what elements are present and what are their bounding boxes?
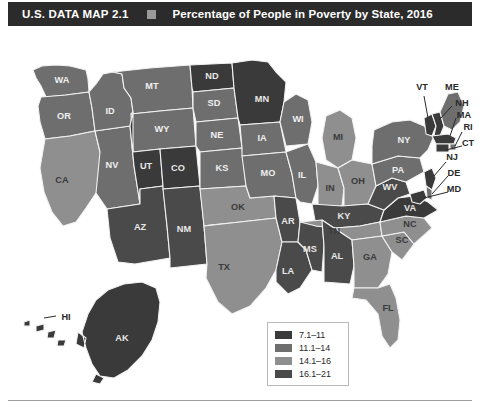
state-label-AZ: AZ <box>134 222 147 232</box>
state-label-NH: NH <box>455 98 469 108</box>
state-label-SC: SC <box>396 235 409 245</box>
map-subtitle: Percentage of People in Poverty by State… <box>173 8 433 20</box>
data-map-page: U.S. DATA MAP 2.1 Percentage of People i… <box>0 0 480 408</box>
state-label-MS: MS <box>303 244 317 254</box>
state-label-KS: KS <box>216 163 229 173</box>
state-label-ME: ME <box>445 82 459 92</box>
state-label-IL: IL <box>298 170 307 180</box>
state-label-OK: OK <box>231 202 245 212</box>
state-label-MI: MI <box>333 132 343 142</box>
state-label-ID: ID <box>105 106 115 116</box>
state-label-IA: IA <box>257 133 267 143</box>
legend-label: 7.1–11 <box>299 330 325 340</box>
state-label-MN: MN <box>255 94 270 104</box>
state-label-RI: RI <box>463 122 472 132</box>
state-label-TX: TX <box>218 262 231 272</box>
legend-item[interactable]: 16.1–21 <box>275 368 341 379</box>
state-label-NV: NV <box>106 160 120 170</box>
state-label-NC: NC <box>403 219 417 229</box>
state-label-MT: MT <box>145 81 159 91</box>
state-label-MA: MA <box>457 110 472 120</box>
state-label-WA: WA <box>55 75 70 85</box>
state-label-FL: FL <box>382 303 394 313</box>
state-label-WI: WI <box>292 114 303 124</box>
state-label-PA: PA <box>392 165 404 175</box>
state-CT[interactable] <box>436 144 449 152</box>
leader-line-HI <box>44 316 56 318</box>
state-label-SD: SD <box>208 98 221 108</box>
legend-label: 16.1–21 <box>299 369 331 379</box>
state-label-UT: UT <box>140 161 153 171</box>
leader-line-VT <box>424 96 428 118</box>
page-title: U.S. DATA MAP 2.1 <box>22 8 129 20</box>
state-label-DE: DE <box>448 168 461 178</box>
state-label-NJ: NJ <box>446 152 458 162</box>
map-header-bar: U.S. DATA MAP 2.1 Percentage of People i… <box>8 2 472 26</box>
state-label-KY: KY <box>338 211 351 221</box>
map-legend: 7.1–11 11.1–14 14.1–16 16.1–21 <box>267 322 349 386</box>
legend-item[interactable]: 14.1–16 <box>275 355 341 366</box>
us-choropleth-map: WA OR CA NV ID MT WY UT AZ CO NM ND SD N… <box>0 26 480 388</box>
state-GA[interactable] <box>352 236 392 288</box>
state-TX[interactable] <box>204 218 282 314</box>
legend-label: 11.1–14 <box>299 343 330 353</box>
legend-swatch <box>275 370 292 378</box>
state-label-OH: OH <box>351 176 365 186</box>
state-MA[interactable] <box>432 134 456 144</box>
legend-swatch <box>275 357 292 365</box>
state-label-CA: CA <box>55 175 69 185</box>
state-label-LA: LA <box>282 266 295 276</box>
state-label-MO: MO <box>261 168 276 178</box>
legend-item[interactable]: 7.1–11 <box>275 329 341 340</box>
state-label-OR: OR <box>57 111 71 121</box>
legend-item[interactable]: 11.1–14 <box>275 342 341 353</box>
state-label-AK: AK <box>115 333 129 343</box>
legend-swatch <box>275 331 292 339</box>
header-square-icon <box>147 10 156 19</box>
state-label-VA: VA <box>404 203 416 213</box>
state-label-CT: CT <box>462 138 475 148</box>
state-label-HI: HI <box>61 312 70 322</box>
state-label-WV: WV <box>383 182 399 192</box>
state-label-CO: CO <box>171 163 185 173</box>
leader-line-NJ <box>434 162 446 176</box>
state-label-IN: IN <box>325 183 335 193</box>
state-label-AL: AL <box>331 251 344 261</box>
state-label-TN: TN <box>328 226 341 236</box>
state-label-ND: ND <box>205 71 219 81</box>
state-HI[interactable] <box>24 320 66 346</box>
state-label-NM: NM <box>177 224 192 234</box>
state-label-VT: VT <box>416 82 428 92</box>
state-label-GA: GA <box>363 252 377 262</box>
state-label-AR: AR <box>281 216 295 226</box>
state-label-NY: NY <box>398 135 411 145</box>
state-FL[interactable] <box>352 284 400 348</box>
legend-swatch <box>275 344 292 352</box>
state-label-NE: NE <box>211 130 224 140</box>
state-label-MD: MD <box>447 184 462 194</box>
state-label-WY: WY <box>155 124 170 134</box>
footer-divider <box>8 400 472 401</box>
state-MN[interactable] <box>232 60 286 125</box>
legend-label: 14.1–16 <box>299 356 331 366</box>
